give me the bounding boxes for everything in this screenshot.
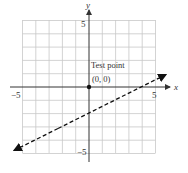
test-point-coords: (0, 0)	[92, 74, 111, 84]
test-point-title: Test point	[91, 60, 125, 70]
y-axis-label: y	[85, 0, 90, 10]
test-point-marker	[87, 85, 91, 89]
y-tick-min: −5	[77, 147, 87, 157]
coordinate-plane: x y −5 5 5 −5 Test point (0, 0)	[0, 0, 188, 173]
x-tick-max: 5	[152, 90, 157, 100]
x-axis-label: x	[173, 82, 178, 92]
y-tick-max: 5	[81, 19, 86, 29]
x-tick-min: −5	[11, 90, 21, 100]
dashed-boundary-line-upper	[58, 75, 166, 129]
